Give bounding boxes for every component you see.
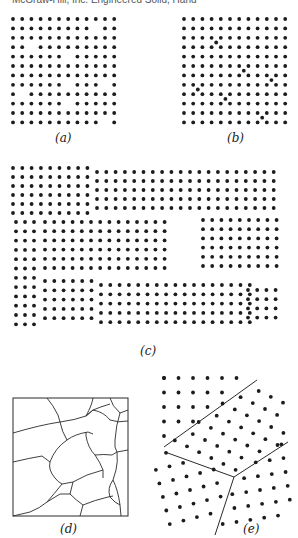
lattice-atom	[11, 55, 15, 59]
lattice-atom	[265, 45, 269, 49]
lattice-atom	[52, 229, 56, 233]
lattice-atom	[216, 179, 220, 183]
lattice-atom	[210, 83, 214, 87]
lattice-atom	[265, 92, 269, 96]
lattice-atom	[191, 45, 195, 49]
lattice-atom	[39, 64, 43, 68]
lattice-atom	[229, 264, 233, 268]
lattice-atom	[191, 83, 195, 87]
lattice-atom	[253, 188, 257, 192]
lattice-atom	[30, 55, 34, 59]
lattice-atom	[192, 320, 196, 324]
lattice-atom	[71, 248, 75, 252]
lattice-atom	[94, 64, 98, 68]
lattice-atom	[95, 197, 99, 201]
lattice-atom	[146, 320, 150, 324]
lattice-atom	[281, 401, 285, 405]
lattice-atom	[48, 102, 52, 106]
lattice-atom	[220, 264, 224, 268]
lattice-atom	[14, 239, 18, 243]
lattice-atom	[117, 220, 121, 224]
lattice-atom	[14, 229, 18, 233]
lattice-atom	[274, 307, 278, 311]
lattice-atom	[209, 426, 213, 430]
lattice-atom	[258, 488, 262, 492]
lattice-atom	[67, 166, 71, 170]
lattice-atom	[76, 111, 80, 115]
lattice-atom	[94, 17, 98, 21]
lattice-atom	[201, 255, 205, 259]
lattice-atom	[66, 74, 70, 78]
lattice-atom	[237, 121, 241, 125]
lattice-atom	[247, 74, 251, 78]
lattice-atom	[112, 83, 116, 87]
lattice-atom	[257, 419, 261, 423]
lattice-atom	[210, 55, 214, 59]
lattice-atom	[71, 279, 75, 283]
lattice-atom	[211, 311, 215, 315]
lattice-atom	[266, 255, 270, 259]
lattice-atom	[85, 36, 89, 40]
lattice-atom	[39, 193, 43, 197]
lattice-atom	[181, 461, 185, 465]
lattice-atom	[247, 83, 251, 87]
lattice-atom	[58, 184, 62, 188]
lattice-atom	[237, 111, 241, 115]
lattice-atom	[32, 220, 36, 224]
lattice-atom	[182, 64, 186, 68]
lattice-atom	[255, 288, 259, 292]
lattice-atom	[263, 188, 267, 192]
lattice-atom	[263, 197, 267, 201]
panel-b-interstitial-lattice	[182, 17, 287, 124]
lattice-atom	[182, 111, 186, 115]
lattice-atom	[39, 202, 43, 206]
lattice-atom	[11, 193, 15, 197]
panel-a-vacancy-lattice	[11, 17, 116, 124]
lattice-atom	[135, 248, 139, 252]
lattice-atom	[58, 193, 62, 197]
panel-a-label: (a)	[55, 131, 72, 145]
lattice-atom	[275, 227, 279, 231]
lattice-atom	[233, 506, 237, 510]
lattice-atom	[274, 64, 278, 68]
lattice-atom	[99, 292, 103, 296]
lattice-atom	[201, 264, 205, 268]
lattice-atom	[179, 188, 183, 192]
lattice-atom	[237, 36, 241, 40]
lattice-atom	[123, 197, 127, 201]
lattice-atom	[80, 257, 84, 261]
lattice-atom	[71, 220, 75, 224]
lattice-atom	[66, 27, 70, 31]
lattice-atom	[62, 279, 66, 283]
lattice-atom	[32, 313, 36, 317]
lattice-atom	[127, 302, 131, 306]
lattice-atom	[158, 482, 162, 486]
lattice-atom	[86, 184, 90, 188]
lattice-atom	[151, 170, 155, 174]
lattice-atom	[30, 64, 34, 68]
lattice-atom	[225, 197, 229, 201]
lattice-atom	[30, 193, 34, 197]
lattice-atom	[86, 175, 90, 179]
lattice-atom	[229, 302, 233, 306]
lattice-atom	[76, 175, 80, 179]
lattice-atom	[66, 64, 70, 68]
lattice-atom	[86, 193, 90, 197]
lattice-atom	[39, 102, 43, 106]
lattice-atom	[164, 283, 168, 287]
lattice-atom	[210, 45, 214, 49]
lattice-atom	[228, 74, 232, 78]
lattice-atom	[247, 64, 251, 68]
lattice-atom	[108, 257, 112, 261]
lattice-atom	[228, 92, 232, 96]
lattice-atom	[127, 320, 131, 324]
lattice-atom	[155, 292, 159, 296]
lattice-atom	[76, 27, 80, 31]
lattice-atom	[32, 295, 36, 299]
lattice-atom	[266, 246, 270, 250]
lattice-atom	[274, 17, 278, 21]
lattice-atom	[253, 206, 257, 210]
lattice-atom	[103, 102, 107, 106]
lattice-atom	[219, 121, 223, 125]
lattice-atom	[210, 237, 214, 241]
